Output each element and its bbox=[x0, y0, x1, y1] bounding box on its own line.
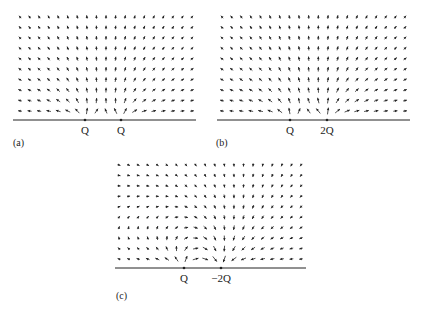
arrowhead-icon bbox=[366, 110, 369, 112]
arrowhead-icon bbox=[137, 216, 140, 219]
arrowhead-icon bbox=[105, 98, 108, 101]
arrowhead-icon bbox=[146, 226, 148, 229]
arrowhead-icon bbox=[137, 258, 140, 260]
arrowhead-icon bbox=[195, 237, 198, 240]
arrowhead-icon bbox=[336, 26, 338, 29]
arrowhead-icon bbox=[175, 163, 178, 166]
arrowhead-icon bbox=[86, 57, 88, 60]
arrowhead-icon bbox=[117, 216, 120, 219]
arrowhead-icon bbox=[105, 77, 108, 80]
arrowhead-icon bbox=[105, 57, 108, 60]
electric-field-figure bbox=[0, 0, 424, 313]
arrowhead-icon bbox=[190, 26, 193, 29]
arrowhead-icon bbox=[223, 185, 225, 188]
arrowhead-icon bbox=[144, 110, 147, 112]
arrowhead-icon bbox=[223, 164, 225, 167]
arrowhead-icon bbox=[76, 57, 78, 60]
arrowhead-icon bbox=[19, 16, 22, 19]
arrowhead-icon bbox=[156, 195, 159, 198]
arrowhead-icon bbox=[114, 98, 117, 101]
arrowhead-icon bbox=[298, 57, 300, 60]
charge-marker bbox=[120, 119, 123, 122]
arrowhead-icon bbox=[288, 98, 290, 101]
charge-marker bbox=[326, 119, 329, 122]
panel-b-label: (b) bbox=[216, 138, 228, 148]
arrowhead-icon bbox=[317, 15, 320, 18]
arrowhead-icon bbox=[147, 195, 150, 198]
arrowhead-icon bbox=[223, 238, 226, 241]
arrowhead-icon bbox=[300, 184, 303, 187]
arrowhead-icon bbox=[184, 174, 187, 177]
arrowhead-icon bbox=[233, 174, 236, 177]
arrowhead-icon bbox=[317, 77, 320, 80]
arrowhead-icon bbox=[317, 46, 320, 49]
arrowhead-icon bbox=[213, 164, 215, 167]
arrowhead-icon bbox=[233, 196, 236, 199]
arrowhead-icon bbox=[124, 26, 126, 29]
charge-marker bbox=[183, 267, 186, 270]
arrowhead-icon bbox=[127, 185, 130, 188]
arrowhead-icon bbox=[105, 26, 108, 29]
arrowhead-icon bbox=[95, 67, 98, 70]
arrowhead-icon bbox=[133, 36, 135, 39]
arrowhead-icon bbox=[95, 77, 98, 80]
arrowhead-icon bbox=[86, 88, 88, 91]
arrowhead-icon bbox=[242, 164, 245, 167]
arrowhead-icon bbox=[317, 67, 320, 70]
arrowhead-icon bbox=[300, 195, 303, 198]
charge-marker bbox=[84, 119, 87, 122]
arrowhead-icon bbox=[336, 15, 338, 18]
arrowhead-icon bbox=[95, 98, 98, 101]
arrowhead-icon bbox=[288, 57, 290, 60]
arrowhead-icon bbox=[19, 26, 22, 29]
arrowhead-icon bbox=[223, 249, 226, 252]
arrowhead-icon bbox=[205, 258, 208, 260]
arrowhead-icon bbox=[223, 195, 225, 198]
arrowhead-icon bbox=[127, 248, 130, 251]
arrowhead-icon bbox=[95, 26, 98, 29]
arrowhead-icon bbox=[307, 26, 310, 29]
arrowhead-icon bbox=[307, 46, 310, 49]
panel-b-charge-1-label: Q bbox=[286, 125, 294, 136]
arrowhead-icon bbox=[146, 174, 149, 176]
arrowhead-icon bbox=[95, 36, 98, 39]
arrowhead-icon bbox=[190, 16, 193, 19]
arrowhead-icon bbox=[105, 88, 108, 91]
arrowhead-icon bbox=[307, 36, 310, 39]
arrowhead-icon bbox=[166, 236, 169, 239]
arrowhead-icon bbox=[127, 216, 130, 219]
arrowhead-icon bbox=[242, 185, 245, 188]
arrowhead-icon bbox=[307, 88, 309, 91]
arrowhead-icon bbox=[233, 217, 236, 220]
panel-c-charge-2-label: −2Q bbox=[211, 273, 231, 284]
arrowhead-icon bbox=[271, 164, 273, 167]
panel-a-label: (a) bbox=[13, 138, 24, 148]
arrowhead-icon bbox=[172, 100, 175, 102]
arrowhead-icon bbox=[223, 259, 225, 262]
arrowhead-icon bbox=[336, 67, 338, 70]
arrowhead-icon bbox=[95, 46, 98, 49]
arrowhead-icon bbox=[317, 26, 320, 29]
arrowhead-icon bbox=[118, 247, 121, 250]
arrowhead-icon bbox=[137, 185, 140, 188]
panel-a-field-plot bbox=[13, 15, 196, 121]
arrowhead-icon bbox=[279, 26, 281, 29]
arrowhead-icon bbox=[146, 216, 149, 219]
panel-b-charge-2-label: 2Q bbox=[320, 125, 333, 136]
arrowhead-icon bbox=[233, 206, 236, 209]
arrowhead-icon bbox=[184, 163, 187, 166]
arrowhead-icon bbox=[262, 185, 264, 188]
arrowhead-icon bbox=[105, 46, 108, 49]
arrowhead-icon bbox=[86, 67, 88, 70]
arrowhead-icon bbox=[317, 88, 320, 91]
panel-c-charge-1-label: Q bbox=[180, 273, 188, 284]
arrowhead-icon bbox=[317, 36, 320, 39]
arrowhead-icon bbox=[105, 36, 108, 39]
panel-b-field-plot bbox=[217, 15, 410, 121]
arrowhead-icon bbox=[194, 174, 197, 177]
arrowhead-icon bbox=[118, 185, 121, 188]
arrowhead-icon bbox=[233, 164, 236, 167]
arrowhead-icon bbox=[280, 247, 283, 249]
panel-a-charge-1-label: Q bbox=[81, 125, 89, 136]
arrowhead-icon bbox=[118, 163, 121, 165]
